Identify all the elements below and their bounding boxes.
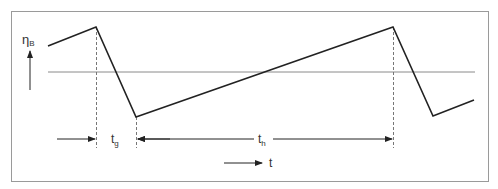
th-label: th <box>258 132 266 148</box>
diagram-frame <box>12 12 489 182</box>
efficiency-waveform-diagram: ηB tg th t <box>0 0 498 189</box>
tg-label: tg <box>111 132 119 148</box>
y-axis-label: ηB <box>22 32 35 48</box>
time-axis-label: t <box>269 156 273 170</box>
